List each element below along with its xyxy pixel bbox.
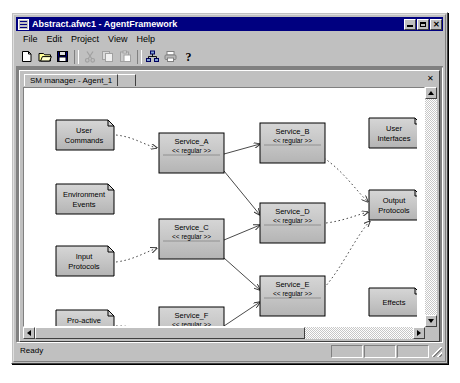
edge-input-protocols-service-c: [116, 248, 157, 262]
edge-service-c-service-e: [224, 258, 260, 290]
node-label: User: [386, 124, 402, 133]
diagram-svg: User Commands Environment Events: [24, 88, 417, 327]
resize-grip[interactable]: [431, 345, 443, 358]
node-label: Environment: [63, 190, 106, 199]
vertical-scrollbar-track[interactable]: [425, 87, 437, 327]
document-tab-strip: SM manager - Agent_1 ✕: [21, 72, 438, 86]
diagram-edges: [116, 135, 370, 327]
application-window-inner: Abstract.afwc1 - AgentFramework ✕ File E…: [13, 14, 446, 362]
paste-button[interactable]: [117, 49, 134, 65]
node-stereotype: << regular >>: [273, 290, 312, 298]
chevron-up-icon: [428, 91, 434, 95]
new-button[interactable]: [18, 49, 35, 65]
scroll-right-button[interactable]: [413, 327, 425, 339]
menu-item-help[interactable]: Help: [132, 33, 160, 45]
edge-service-d-output-protocols: [326, 212, 368, 223]
edge-user-commands-service-a: [116, 135, 157, 148]
node-label: User: [76, 126, 92, 135]
status-pane-4: [397, 345, 429, 358]
menu-bar: File Edit Project View Help: [16, 32, 443, 46]
node-stereotype: << regular >>: [273, 217, 312, 225]
edge-service-c-service-d: [224, 225, 260, 240]
maximize-button[interactable]: [417, 19, 429, 30]
edge-service-e-output-protocols: [324, 221, 370, 288]
node-service-e[interactable]: Service_E << regular >>: [260, 276, 325, 316]
scrollbar-corner: [425, 327, 437, 339]
vertical-scrollbar[interactable]: [425, 87, 437, 327]
node-label-2: Protocols: [68, 262, 100, 271]
chevron-left-icon: [27, 330, 31, 336]
title-bar: Abstract.afwc1 - AgentFramework ✕: [16, 17, 443, 31]
edge-service-b-output-protocols: [324, 158, 368, 202]
node-service-f[interactable]: Service_F << regular >>: [159, 307, 224, 327]
node-stereotype: << regular >>: [273, 137, 312, 145]
node-service-a[interactable]: Service_A << regular >>: [159, 133, 224, 173]
screenshot-root: Abstract.afwc1 - AgentFramework ✕ File E…: [0, 0, 460, 383]
node-label-2: Protocols: [378, 206, 410, 215]
hierarchy-button[interactable]: [144, 49, 161, 65]
document-close-icon[interactable]: ✕: [427, 74, 434, 84]
node-label-2: Commands: [65, 136, 104, 145]
node-proactive-model[interactable]: Pro-active Model: [56, 310, 114, 327]
toolbar-separator-2: [137, 50, 142, 64]
copy-button[interactable]: [99, 49, 116, 65]
node-label: Service_B: [275, 127, 309, 136]
node-environment-events[interactable]: Environment Events: [56, 184, 114, 214]
diagram-canvas[interactable]: User Commands Environment Events: [23, 87, 425, 327]
node-input-protocols[interactable]: Input Protocols: [56, 246, 114, 276]
save-button[interactable]: [54, 49, 71, 65]
node-service-c[interactable]: Service_C << regular >>: [159, 219, 224, 259]
node-label: Service_F: [175, 311, 209, 320]
help-button[interactable]: ?: [180, 49, 197, 65]
edge-service-a-service-d: [224, 171, 260, 215]
menu-item-edit[interactable]: Edit: [43, 33, 68, 45]
node-label: Effects: [383, 298, 406, 307]
status-pane-2: [331, 345, 363, 358]
document-window: SM manager - Agent_1 ✕: [19, 70, 440, 342]
window-controls: ✕: [404, 19, 442, 30]
menu-item-project[interactable]: Project: [67, 33, 104, 45]
node-label: Output: [383, 196, 406, 205]
window-title: Abstract.afwc1 - AgentFramework: [32, 19, 404, 29]
node-effects[interactable]: Effects: [369, 288, 417, 316]
open-button[interactable]: [36, 49, 53, 65]
minimize-button[interactable]: [404, 19, 416, 30]
node-label: Service_D: [275, 207, 310, 216]
node-label: Service_E: [275, 280, 309, 289]
tab-sm-manager-agent-1[interactable]: SM manager - Agent_1: [24, 74, 118, 86]
scroll-left-button[interactable]: [23, 327, 35, 339]
node-label-2: Events: [73, 200, 96, 209]
node-user-interfaces[interactable]: User Interfaces: [369, 118, 417, 148]
node-label-2: Interfaces: [378, 134, 411, 143]
status-pane-3: [364, 345, 396, 358]
scroll-down-button[interactable]: [425, 315, 437, 327]
horizontal-scrollbar[interactable]: [23, 327, 425, 339]
node-label: Service_A: [174, 137, 208, 146]
canvas-frame: User Commands Environment Events: [21, 86, 438, 340]
node-label: Service_C: [174, 223, 209, 232]
application-window: Abstract.afwc1 - AgentFramework ✕ File E…: [11, 12, 448, 364]
status-bar: Ready: [16, 344, 443, 359]
horizontal-scrollbar-thumb[interactable]: [35, 327, 305, 339]
menu-item-file[interactable]: File: [19, 33, 43, 45]
node-service-d[interactable]: Service_D << regular >>: [260, 203, 325, 243]
cut-button[interactable]: [81, 49, 98, 65]
status-message: Ready: [16, 345, 330, 358]
menu-item-view[interactable]: View: [104, 33, 132, 45]
print-button[interactable]: [162, 49, 179, 65]
close-icon: ✕: [431, 20, 441, 29]
toolbar-separator-1: [74, 50, 79, 64]
edge-service-a-service-b: [224, 144, 260, 154]
close-button[interactable]: ✕: [430, 19, 442, 30]
scroll-up-button[interactable]: [425, 87, 437, 99]
node-stereotype: << regular >>: [172, 147, 211, 155]
node-stereotype: << regular >>: [172, 233, 211, 241]
svg-text:?: ?: [186, 50, 192, 63]
tab-strip-filler: [118, 74, 136, 86]
app-icon: [18, 19, 29, 30]
node-user-commands[interactable]: User Commands: [56, 120, 114, 150]
node-service-b[interactable]: Service_B << regular >>: [260, 123, 325, 163]
chevron-right-icon: [417, 330, 421, 336]
node-output-protocols[interactable]: Output Protocols: [369, 190, 417, 220]
node-label: Input: [76, 252, 94, 261]
